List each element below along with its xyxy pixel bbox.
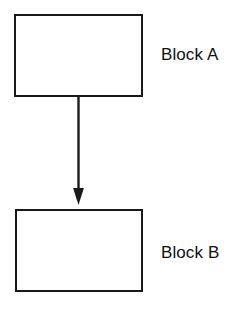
arrow-down-icon: [60, 90, 100, 212]
block-b-label: Block B: [161, 244, 219, 261]
block-a-rectangle[interactable]: [14, 14, 143, 97]
block-a-label: Block A: [161, 46, 218, 63]
block-b-rectangle[interactable]: [15, 209, 143, 292]
arrowhead-triangle: [73, 188, 84, 205]
diagram-canvas: Block A Block B: [0, 0, 247, 311]
